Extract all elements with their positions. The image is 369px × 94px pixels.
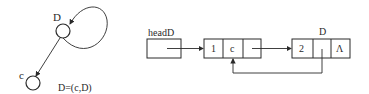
- node-c-label: c: [19, 69, 24, 81]
- node2-label: D: [319, 26, 326, 37]
- node1-tag: 1: [211, 43, 216, 54]
- node-c-circle: [26, 76, 40, 90]
- node-d-label: D: [53, 11, 61, 23]
- head-label: headD: [148, 27, 174, 38]
- node2-null: Λ: [336, 43, 344, 54]
- back-pointer-arrow: [233, 49, 322, 73]
- edge-d-to-c: [36, 38, 60, 76]
- node2-tag: 2: [299, 43, 304, 54]
- node1-atom: c: [230, 43, 235, 54]
- node-d-circle: [56, 24, 70, 38]
- graph-view: D c D=(c,D): [19, 7, 107, 94]
- storage-view: headD 1 c D 2 Λ: [147, 26, 350, 73]
- generalized-list-diagram: D c D=(c,D) headD 1 c D 2 Λ: [0, 0, 369, 94]
- equation-label: D=(c,D): [58, 82, 92, 94]
